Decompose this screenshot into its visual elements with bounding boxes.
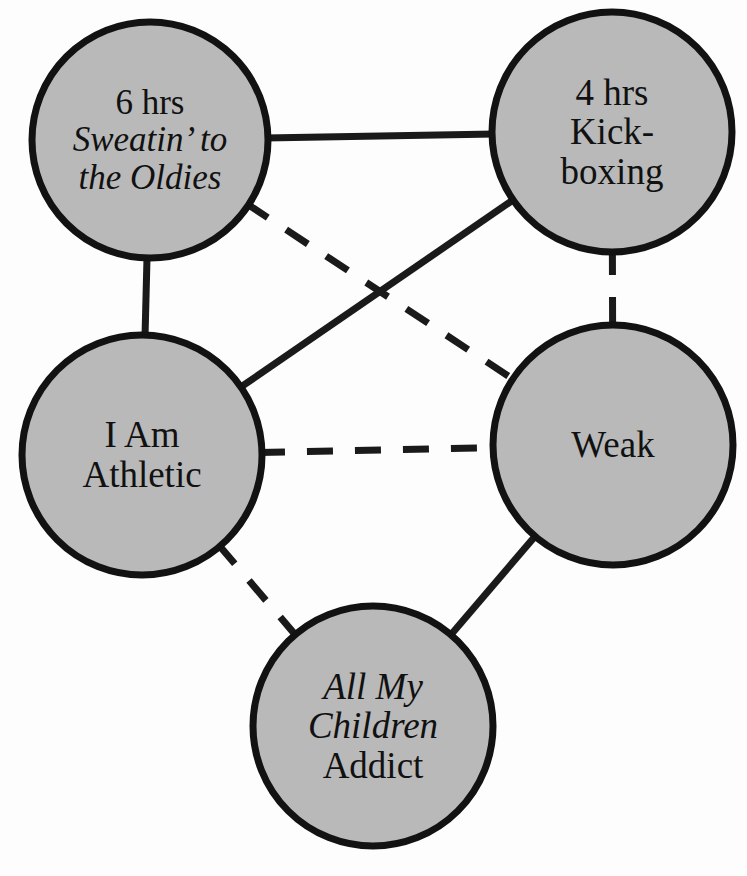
kickboxing-node[interactable] [492, 12, 732, 252]
edge-athletic-addict [218, 544, 297, 637]
diagram-canvas: 6 hrsSweatin’ tothe Oldies4 hrsKick-boxi… [0, 0, 747, 876]
edge-athletic-weak [259, 447, 496, 452]
sweatin-to-the-oldies-node[interactable] [32, 22, 268, 258]
edge-sweatin-athletic [145, 255, 147, 338]
weak-node[interactable] [493, 325, 733, 565]
all-my-children-addict-node[interactable] [253, 606, 493, 846]
edge-weak-addict [449, 534, 537, 637]
i-am-athletic-node[interactable] [22, 335, 262, 575]
graph-svg [0, 0, 747, 876]
edge-sweatin-kickboxing [265, 134, 495, 138]
